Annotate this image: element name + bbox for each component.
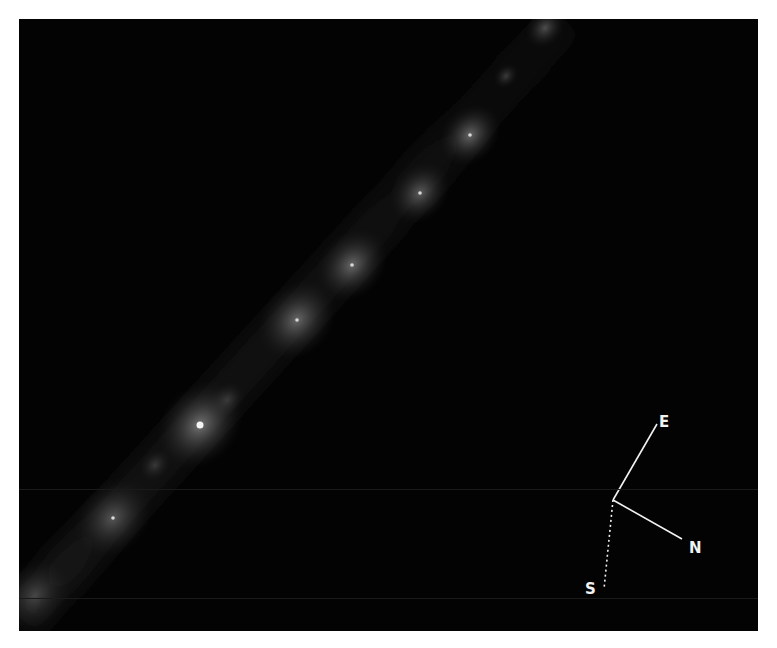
fragment-nucleus [111,516,115,520]
compass-label-north: N [689,541,702,556]
fragment-nucleus [295,318,299,322]
compass-rose [604,424,682,589]
fragment-nucleus [197,422,204,429]
fragment-train [19,19,758,631]
fragment-nucleus [468,133,472,137]
fragment-nucleus [350,263,354,267]
compass-label-south: S [585,582,596,597]
compass-label-east: E [659,415,669,430]
south-pointer [604,500,613,589]
north-pointer [613,500,682,539]
fragment-nucleus [418,191,422,195]
comet-image: E N S [19,19,758,631]
